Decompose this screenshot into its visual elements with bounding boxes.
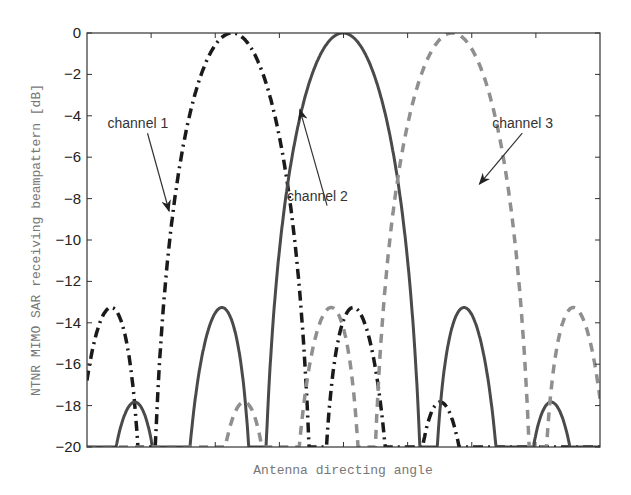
series-line-channel-2 [87, 33, 600, 447]
y-tick-label: −10 [56, 231, 81, 248]
series-line-channel-3 [87, 33, 600, 447]
plot-frame [87, 33, 600, 447]
y-tick-label: −12 [56, 272, 81, 289]
y-axis-label: NTNR MIMO SAR receiving beampattern [dB] [29, 84, 44, 396]
y-tick-label: −18 [56, 397, 81, 414]
annotation-label: channel 1 [108, 115, 169, 131]
y-tick-label: −20 [56, 438, 81, 455]
x-axis [151, 33, 536, 447]
y-tick-label: −8 [64, 190, 81, 207]
y-tick-label: −4 [64, 107, 81, 124]
y-tick-label: −6 [64, 148, 81, 165]
y-tick-label: 0 [73, 24, 81, 41]
beampattern-chart: 0−2−4−6−8−10−12−14−16−18−20 Antenna dire… [0, 0, 631, 495]
annotation-label: channel 2 [287, 188, 348, 204]
plot-area [87, 33, 600, 447]
x-axis-label: Antenna directing angle [253, 463, 432, 478]
annotation-label: channel 3 [492, 115, 553, 131]
y-axis: 0−2−4−6−8−10−12−14−16−18−20 [56, 24, 600, 455]
y-tick-label: −14 [56, 314, 81, 331]
annotation-arrow [148, 133, 170, 211]
y-tick-label: −2 [64, 65, 81, 82]
y-tick-label: −16 [56, 355, 81, 372]
series-line-channel-1 [87, 33, 600, 447]
